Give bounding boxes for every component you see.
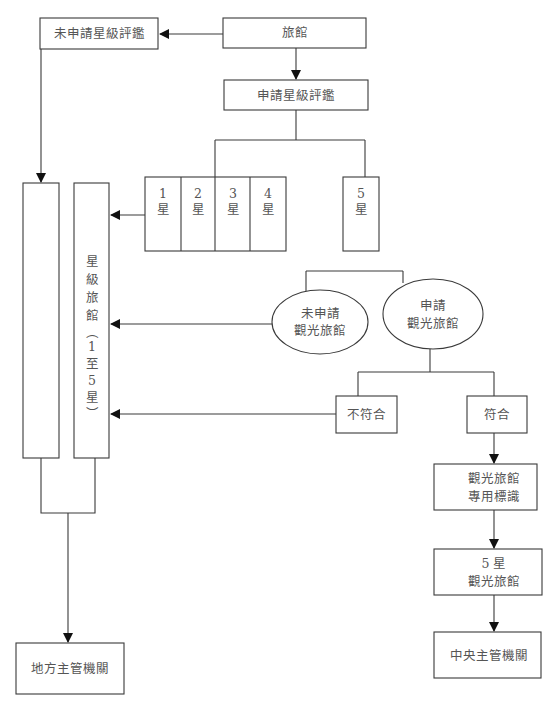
star-3-unit: 星 [227,202,240,217]
node-label: 地方主管機關 [31,661,109,676]
column-char-1: 1 [88,339,96,354]
node-star-hotel-column: 星 級 旅 館 ︵ 1 1 至 5 星 ︶ [74,183,109,458]
column-char: 旅 [86,290,99,305]
node-label: 符合 [484,407,510,422]
flowchart-canvas: 未申請星級評鑑 旅館 申請星級評鑑 1 星 2 星 3 星 4 星 5 星 [0,0,557,704]
node-tourist-hotel-mark: 觀光旅館 專用標識 [434,464,537,510]
node-central-authority: 中央主管機關 [434,632,541,678]
merge-connector [41,458,95,513]
column-char: 館 [86,308,99,323]
node-label-line1: 未申請 [301,306,340,321]
star-4-num: 4 [264,186,272,201]
column-char: 至 [86,356,99,371]
left-column [23,183,59,458]
star-5-num: 5 [357,186,365,201]
star-5-unit: 星 [355,202,368,217]
node-five-star-tourist-hotel: 5 星 觀光旅館 [434,549,542,595]
node-label-line1: 5 星 [482,556,507,571]
star-2-num: 2 [194,186,202,201]
column-char: 5 [88,373,96,388]
node-star-1-4-group: 1 星 2 星 3 星 4 星 [145,177,286,251]
node-label-line1: 申請 [420,298,446,313]
node-star-5: 5 星 [343,177,379,251]
star-2-unit: 星 [192,202,205,217]
node-label-line2: 觀光旅館 [294,323,346,338]
column-char: ︵ [86,325,99,340]
column-char: 星 [86,254,99,269]
column-char: 星 [86,390,99,405]
node-local-authority: 地方主管機關 [16,643,124,694]
node-apply-star-rating: 申請星級評鑑 [224,80,368,110]
node-label: 未申請星級評鑑 [54,26,145,41]
node-label-line1: 觀光旅館 [468,471,520,486]
star-1-num: 1 [159,186,167,201]
node-label-line2: 觀光旅館 [407,316,459,331]
node-label: 旅館 [282,25,308,40]
column-char: 級 [86,272,99,287]
column-char: ︶ [86,406,99,421]
star-1-unit: 星 [157,202,170,217]
node-hotel: 旅館 [223,18,366,48]
node-applied-tourist-hotel: 申請 觀光旅館 [383,279,483,349]
node-not-applied-tourist-hotel: 未申請 觀光旅館 [272,290,368,354]
star-4-unit: 星 [262,202,275,217]
node-label: 中央主管機關 [450,648,528,663]
node-label-line2: 專用標識 [468,489,520,504]
node-qualified: 符合 [467,396,527,433]
star-3-num: 3 [229,186,237,201]
node-not-qualified: 不符合 [336,396,397,433]
node-label: 申請星級評鑑 [257,88,335,103]
node-label: 不符合 [347,407,386,422]
node-label-line2: 觀光旅館 [468,574,520,589]
node-not-applied-star-rating: 未申請星級評鑑 [40,18,158,49]
